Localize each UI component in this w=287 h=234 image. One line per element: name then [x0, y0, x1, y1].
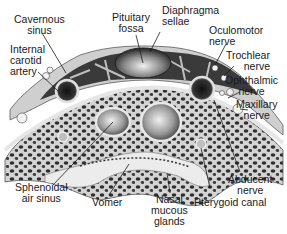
- label-trochlear-nerve: Trochlear nerve: [226, 50, 270, 72]
- label-pterygoid-canal: Pterygoid canal: [194, 197, 266, 208]
- label-nasal-mucous-glands: Nasal mucous glands: [151, 194, 188, 227]
- label-maxillary-nerve: Maxillary nerve: [236, 99, 277, 121]
- label-vomer: Vomer: [92, 197, 122, 208]
- internal-carotid-right: [190, 77, 214, 101]
- label-cavernous-sinus: Cavernous sinus: [14, 14, 65, 36]
- pterygoid-canal-left: [58, 132, 68, 142]
- sphenoidal-air-sinus-right: [141, 103, 181, 141]
- internal-carotid-left: [56, 80, 78, 102]
- pterygoid-canal-right: [196, 139, 206, 149]
- label-pituitary-fossa: Pituitary fossa: [112, 12, 150, 34]
- label-ophthalmic-nerve: Ophthalmic nerve: [225, 75, 278, 97]
- label-internal-carotid-artery: Internal carotid artery: [10, 44, 45, 77]
- label-abducent-nerve: Abducent nerve: [228, 174, 272, 196]
- label-oculomotor-nerve: Oculomotor nerve: [209, 25, 263, 47]
- anatomy-figure: Cavernous sinus Pituitary fossa Diaphrag…: [0, 0, 287, 234]
- label-sphenoidal-air-sinus: Sphenoidal air sinus: [15, 182, 68, 204]
